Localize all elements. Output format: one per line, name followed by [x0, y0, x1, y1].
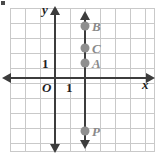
coordinate-plane-figure: BCAP y x O 1 1	[0, 0, 157, 160]
y-axis-down-arrow-icon	[50, 144, 60, 153]
x-axis-label: x	[142, 78, 149, 91]
x-axis	[8, 77, 149, 79]
x-axis-tick-label-1: 1	[66, 81, 73, 94]
point-marker	[81, 59, 90, 68]
point-label: B	[92, 20, 101, 33]
origin-label: O	[42, 81, 51, 94]
y-axis-up-arrow-icon	[50, 6, 60, 15]
y-axis	[54, 12, 56, 149]
vertical-line-up-arrow-icon	[80, 11, 90, 20]
corner-mark	[1, 1, 5, 5]
point-marker	[81, 126, 90, 135]
point-marker	[81, 21, 90, 30]
y-axis-tick-label-1: 1	[42, 57, 49, 70]
point-label: C	[92, 42, 101, 55]
point-marker	[81, 44, 90, 53]
x-axis-left-arrow-icon	[2, 73, 11, 83]
point-label: A	[92, 57, 101, 70]
grid-edge-bottom	[10, 151, 155, 152]
point-label: P	[92, 125, 100, 138]
vertical-line-down-arrow-icon	[80, 140, 90, 149]
y-axis-label: y	[42, 3, 48, 16]
